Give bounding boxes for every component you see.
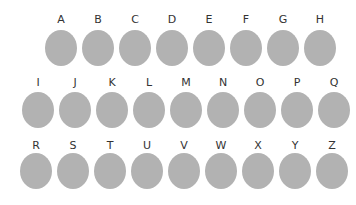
letter-item-l[interactable]: L [133,77,165,137]
letter-item-b[interactable]: B [82,14,114,74]
letter-circle-button[interactable] [316,153,348,189]
letter-label: X [242,140,274,152]
letter-circle-button[interactable] [267,30,299,66]
letter-item-e[interactable]: E [193,14,225,74]
letter-label: S [57,140,89,152]
letter-circle-button[interactable] [318,92,350,128]
letter-circle-button[interactable] [230,30,262,66]
letter-label: Z [316,140,348,152]
letter-circle-button[interactable] [57,153,89,189]
letter-row-1: ABCDEFGH [0,14,356,74]
letter-circle-button[interactable] [82,30,114,66]
letter-label: J [59,77,91,89]
letter-label: T [94,140,126,152]
letter-label: C [119,14,151,26]
letter-circle-button[interactable] [168,153,200,189]
letter-label: M [170,77,202,89]
letter-label: P [281,77,313,89]
letter-label: F [230,14,262,26]
letter-item-y[interactable]: Y [279,140,311,200]
letter-label: K [96,77,128,89]
letter-circle-button[interactable] [45,30,77,66]
letter-row-3: RSTUVWXYZ [0,140,356,200]
letter-label: N [207,77,239,89]
letter-item-f[interactable]: F [230,14,262,74]
letter-item-r[interactable]: R [20,140,52,200]
letter-circle-button[interactable] [242,153,274,189]
letter-label: L [133,77,165,89]
letter-item-q[interactable]: Q [318,77,350,137]
letter-item-o[interactable]: O [244,77,276,137]
letter-item-t[interactable]: T [94,140,126,200]
letter-item-w[interactable]: W [205,140,237,200]
letter-label: W [205,140,237,152]
letter-label: R [20,140,52,152]
letter-item-z[interactable]: Z [316,140,348,200]
letter-item-a[interactable]: A [45,14,77,74]
letter-item-i[interactable]: I [22,77,54,137]
letter-circle-button[interactable] [133,92,165,128]
letter-item-u[interactable]: U [131,140,163,200]
letter-label: B [82,14,114,26]
letter-circle-button[interactable] [244,92,276,128]
letter-row-2: IJKLMNOPQ [0,77,356,137]
letter-label: H [304,14,336,26]
letter-circle-button[interactable] [96,92,128,128]
letter-circle-button[interactable] [193,30,225,66]
letter-item-n[interactable]: N [207,77,239,137]
letter-label: V [168,140,200,152]
letter-label: D [156,14,188,26]
letter-label: I [22,77,54,89]
letter-circle-button[interactable] [170,92,202,128]
letter-circle-button[interactable] [22,92,54,128]
letter-item-x[interactable]: X [242,140,274,200]
letter-circle-button[interactable] [279,153,311,189]
letter-label: O [244,77,276,89]
letter-item-j[interactable]: J [59,77,91,137]
letter-item-k[interactable]: K [96,77,128,137]
letter-label: Q [318,77,350,89]
letter-circle-button[interactable] [94,153,126,189]
letter-label: E [193,14,225,26]
letter-circle-button[interactable] [304,30,336,66]
letter-circle-button[interactable] [59,92,91,128]
letter-circle-button[interactable] [156,30,188,66]
letter-label: Y [279,140,311,152]
letter-item-g[interactable]: G [267,14,299,74]
letter-item-d[interactable]: D [156,14,188,74]
letter-label: U [131,140,163,152]
letter-label: A [45,14,77,26]
letter-item-s[interactable]: S [57,140,89,200]
letter-item-v[interactable]: V [168,140,200,200]
letter-item-c[interactable]: C [119,14,151,74]
letter-circle-button[interactable] [119,30,151,66]
letter-item-p[interactable]: P [281,77,313,137]
letter-circle-button[interactable] [207,92,239,128]
letter-circle-button[interactable] [205,153,237,189]
letter-circle-button[interactable] [131,153,163,189]
letter-item-m[interactable]: M [170,77,202,137]
letter-item-h[interactable]: H [304,14,336,74]
letter-label: G [267,14,299,26]
letter-circle-button[interactable] [20,153,52,189]
letter-circle-button[interactable] [281,92,313,128]
